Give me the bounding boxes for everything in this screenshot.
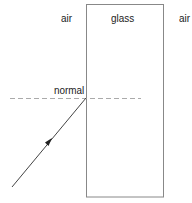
glass-block <box>87 5 164 198</box>
arrow-head-icon <box>45 138 52 146</box>
air-left-label: air <box>61 12 72 24</box>
normal-label: normal <box>54 84 84 96</box>
glass-label: glass <box>111 12 134 24</box>
air-right-label: air <box>179 12 190 24</box>
refraction-diagram <box>0 0 192 203</box>
